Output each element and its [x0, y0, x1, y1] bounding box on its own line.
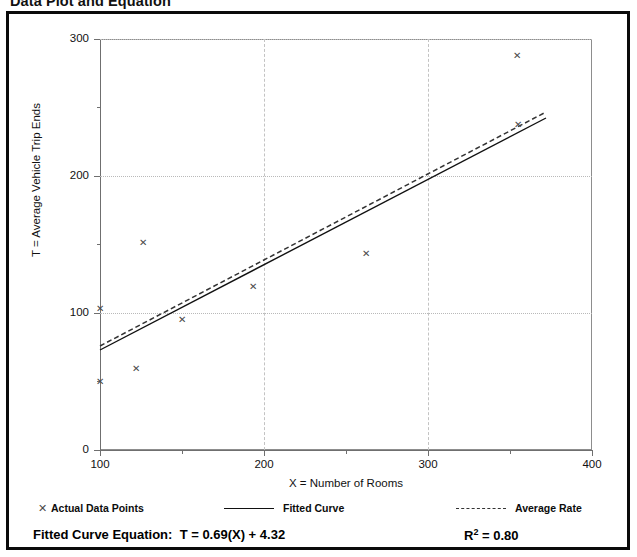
legend-label-actual-data-points: Actual Data Points	[51, 502, 144, 514]
series-lines	[9, 14, 627, 492]
page-title: Data Plot and Equation	[10, 0, 171, 9]
equation-formula: T = 0.69(X) + 4.32	[180, 527, 286, 542]
r-squared-value: R2 = 0.80	[464, 527, 519, 543]
dashed-line-icon	[456, 508, 506, 509]
data-point	[177, 314, 188, 325]
data-point	[513, 119, 524, 130]
legend-item-actual-data-points: ✕ Actual Data Points	[33, 498, 144, 518]
data-point	[95, 303, 106, 314]
legend-label-average-rate: Average Rate	[515, 502, 582, 514]
fitted-curve-line	[100, 118, 546, 350]
figure-inner: 300 200 100 0 100 200 300 400 T = Averag…	[9, 14, 627, 547]
fitted-curve-equation: Fitted Curve Equation: T = 0.69(X) + 4.3…	[33, 527, 285, 542]
data-point	[138, 237, 149, 248]
legend-label-fitted-curve: Fitted Curve	[283, 502, 344, 514]
data-point	[131, 363, 142, 374]
r2-exponent: 2	[473, 527, 478, 537]
equation-label: Fitted Curve Equation:	[33, 527, 172, 542]
solid-line-icon	[224, 508, 274, 509]
figure-frame: 300 200 100 0 100 200 300 400 T = Averag…	[6, 11, 630, 550]
chart-legend: ✕ Actual Data Points Fitted Curve Averag…	[9, 498, 627, 524]
data-point	[361, 248, 372, 259]
figure-title-bar: Data Plot and Equation	[0, 0, 637, 11]
data-point	[512, 50, 523, 61]
data-point	[95, 376, 106, 387]
chart-area: 300 200 100 0 100 200 300 400 T = Averag…	[9, 14, 627, 492]
legend-item-fitted-curve: Fitted Curve	[224, 498, 344, 518]
r2-number: = 0.80	[482, 528, 519, 543]
r2-base: R	[464, 528, 473, 543]
data-point	[248, 281, 259, 292]
legend-item-average-rate: Average Rate	[456, 498, 582, 518]
equation-row: Fitted Curve Equation: T = 0.69(X) + 4.3…	[9, 527, 627, 551]
x-marker-icon: ✕	[33, 502, 51, 515]
average-rate-line	[100, 112, 546, 346]
